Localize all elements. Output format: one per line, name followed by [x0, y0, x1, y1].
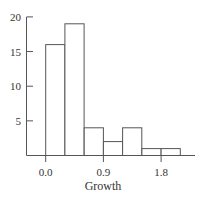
y-tick-label: 5: [16, 115, 22, 127]
y-axis-ticks: 5101520: [10, 11, 33, 127]
histogram-chart: 5101520 0.00.91.8 Growth: [0, 0, 202, 207]
y-tick-label: 15: [10, 46, 22, 58]
x-axis-ticks: 0.00.91.8: [39, 156, 169, 179]
x-tick-label: 0.0: [39, 166, 53, 178]
histogram-bar: [65, 24, 84, 156]
histogram-bar: [123, 128, 142, 156]
histogram-bar: [84, 128, 103, 156]
x-tick-label: 0.9: [97, 166, 111, 178]
y-tick-label: 10: [10, 80, 22, 92]
histogram-bar: [46, 45, 65, 156]
x-axis-label: Growth: [85, 179, 122, 193]
x-tick-label: 1.8: [154, 166, 168, 178]
histogram-bar: [161, 149, 180, 156]
histogram-bar: [142, 149, 161, 156]
histogram-bars: [46, 24, 181, 156]
histogram-bar: [103, 142, 122, 156]
y-tick-label: 20: [10, 11, 22, 23]
